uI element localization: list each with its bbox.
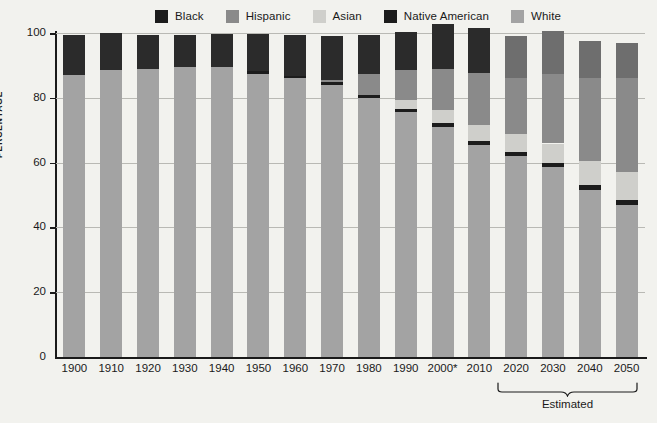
bar-2010 (468, 33, 490, 357)
legend-item-white: White (511, 10, 561, 23)
x-tick-label: 1980 (351, 362, 388, 374)
bar-segment-white (358, 98, 380, 357)
bar-segment-white (616, 205, 638, 357)
bar-segment-native-american (395, 109, 417, 112)
bar-segment-black (358, 35, 380, 75)
x-tick-label: 1920 (130, 362, 167, 374)
bar-segment-hispanic (321, 80, 343, 82)
bar-segment-white (505, 156, 527, 357)
bar-segment-native-american (579, 185, 601, 190)
bar-segment-native-american (616, 200, 638, 205)
bar-segment-black (432, 24, 454, 70)
bar-segment-asian (579, 161, 601, 185)
bar-segment-black-proj (542, 31, 564, 74)
bar-segment-black-proj (616, 43, 638, 79)
legend-swatch-icon (384, 10, 397, 23)
legend-item-hispanic: Hispanic (226, 10, 291, 23)
y-axis-tick (50, 33, 56, 35)
legend-swatch-icon (511, 10, 524, 23)
bar-segment-native-american (284, 76, 306, 79)
bar-segment-white (284, 78, 306, 357)
x-axis-line (55, 357, 647, 359)
y-tick-label: 80 (6, 91, 46, 103)
bar-segment-asian (505, 134, 527, 151)
bar-1930 (174, 33, 196, 357)
bracket-label: Estimated (495, 398, 640, 410)
y-axis-tick (50, 227, 56, 229)
bar-segment-black (247, 34, 269, 72)
y-axis-title: PERCENTAGE (0, 91, 4, 158)
bar-segment-asian (432, 110, 454, 123)
y-tick-label: 0 (6, 350, 46, 362)
x-tick-label: 1970 (314, 362, 351, 374)
bar-segment-hispanic (616, 78, 638, 172)
bar-segment-white (63, 75, 85, 357)
legend-label: Asian (333, 10, 362, 22)
bar-segment-asian (616, 172, 638, 200)
y-tick-label: 100 (6, 26, 46, 38)
bar-1940 (211, 33, 233, 357)
x-tick-label: 2050 (608, 362, 645, 374)
bar-segment-white (174, 67, 196, 357)
bar-segment-hispanic (505, 78, 527, 135)
x-tick-label: 2030 (535, 362, 572, 374)
bar-segment-black (63, 35, 85, 76)
bar-segment-asian (468, 125, 490, 140)
bar-segment-native-american (321, 82, 343, 85)
bar-segment-white (395, 112, 417, 357)
bar-segment-native-american (358, 95, 380, 98)
bar-segment-black (137, 35, 159, 69)
bar-1950 (247, 33, 269, 357)
legend-label: Hispanic (246, 10, 291, 22)
legend-item-black: Black (155, 10, 204, 23)
bar-segment-white (100, 70, 122, 357)
bar-2000 (432, 33, 454, 357)
bar-segment-native-american (432, 123, 454, 127)
legend-item-asian: Asian (313, 10, 362, 23)
x-tick-label: 1900 (56, 362, 93, 374)
bar-1900 (63, 33, 85, 357)
bar-segment-hispanic (542, 74, 564, 144)
legend-label: Native American (404, 10, 489, 22)
x-tick-label: 2020 (498, 362, 535, 374)
y-tick-label: 60 (6, 156, 46, 168)
bar-1920 (137, 33, 159, 357)
legend-label: White (531, 10, 561, 22)
bar-2040 (579, 33, 601, 357)
bar-1970 (321, 33, 343, 357)
bar-segment-white (579, 190, 601, 357)
bar-segment-asian (395, 100, 417, 109)
plot-area (56, 33, 645, 357)
bar-segment-white (468, 145, 490, 357)
y-axis-tick (50, 292, 56, 294)
y-axis-tick (50, 98, 56, 100)
bar-1990 (395, 33, 417, 357)
x-tick-label: 1990 (387, 362, 424, 374)
bar-segment-hispanic (468, 73, 490, 126)
x-tick-label: 1930 (166, 362, 203, 374)
bar-segment-white (137, 69, 159, 357)
x-tick-label: 1910 (93, 362, 130, 374)
legend-item-native-american: Native American (384, 10, 489, 23)
y-axis-labels: 020406080100 (0, 33, 46, 357)
bracket-icon (495, 381, 640, 397)
estimated-bracket: Estimated (495, 381, 640, 415)
legend-label: Black (175, 10, 204, 22)
bar-segment-black (321, 36, 343, 80)
bar-segment-black-proj (505, 36, 527, 77)
legend-swatch-icon (155, 10, 168, 23)
bar-segment-hispanic (358, 74, 380, 94)
bar-segment-hispanic (579, 78, 601, 161)
legend-swatch-icon (313, 10, 326, 23)
bar-segment-black (468, 28, 490, 72)
x-tick-label: 1960 (277, 362, 314, 374)
legend-swatch-icon (226, 10, 239, 23)
bar-segment-black (395, 32, 417, 70)
x-tick-label: 2010 (461, 362, 498, 374)
bar-segment-hispanic (395, 70, 417, 100)
bar-segment-native-american (505, 152, 527, 157)
bar-segment-black (100, 33, 122, 70)
bar-segment-hispanic (432, 69, 454, 110)
bar-segment-black (211, 34, 233, 67)
bar-2050 (616, 33, 638, 357)
